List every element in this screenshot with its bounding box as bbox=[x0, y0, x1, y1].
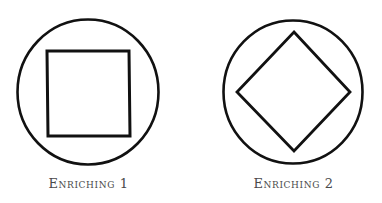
figure-label: Enriching 1 bbox=[0, 176, 184, 191]
outer-circle bbox=[18, 20, 159, 165]
figure-enriching-1: Enriching 1 bbox=[0, 0, 191, 203]
outer-circle bbox=[224, 21, 363, 164]
inner-square bbox=[47, 51, 130, 136]
circle-square-icon bbox=[0, 0, 191, 203]
figure-label: Enriching 2 bbox=[198, 176, 382, 191]
circle-diamond-icon bbox=[191, 0, 382, 203]
figure-enriching-2: Enriching 2 bbox=[191, 0, 382, 203]
inner-diamond bbox=[237, 32, 350, 151]
